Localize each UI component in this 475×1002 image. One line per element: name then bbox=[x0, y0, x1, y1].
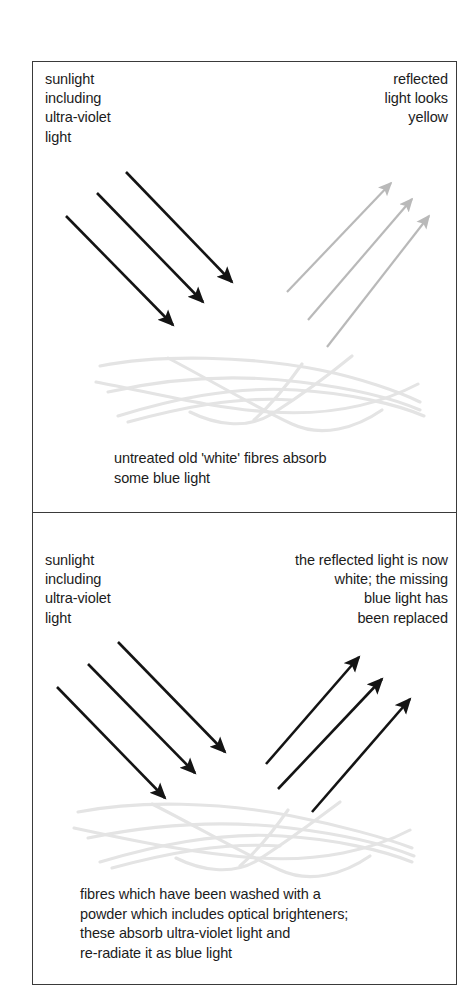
top-reflected-light-label: reflected light looks yellow bbox=[255, 70, 448, 128]
bottom-reflected-light-label: the reflected light is now white; the mi… bbox=[236, 551, 448, 628]
top-incident-light-label: sunlight including ultra-violet light bbox=[45, 70, 220, 147]
figure-border bbox=[32, 61, 457, 985]
bottom-panel-caption: fibres which have been washed with a pow… bbox=[80, 885, 430, 963]
diagram-figure: sunlight including ultra-violet light re… bbox=[0, 0, 475, 1002]
panel-divider bbox=[32, 512, 457, 513]
top-panel-caption: untreated old 'white' fibres absorb some… bbox=[114, 449, 434, 488]
bottom-incident-light-label: sunlight including ultra-violet light bbox=[45, 551, 220, 628]
